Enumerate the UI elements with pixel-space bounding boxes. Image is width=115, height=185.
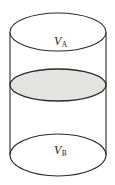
shaded-cross-section-ellipse	[10, 69, 106, 101]
volume-subscript-top: A	[61, 40, 67, 49]
volume-label-top: VA	[54, 35, 67, 49]
volume-label-bottom: VB	[54, 144, 67, 158]
volume-subscript-bottom: B	[61, 149, 67, 158]
cylinder-diagram: VA VB	[0, 0, 115, 185]
